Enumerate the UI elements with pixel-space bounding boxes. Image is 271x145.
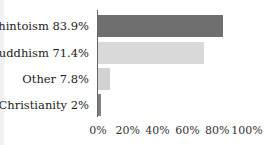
category-label: Other 7.8% [22,72,89,86]
category-label: Buddhism 71.4% [0,46,89,60]
bar [98,94,101,116]
category-label: Shintoism 83.9% [0,19,89,33]
x-tick-label: 100% [227,124,267,137]
category-label: Christianity 2% [0,98,89,112]
bar [98,68,110,90]
bar [98,15,223,37]
bar [98,42,204,64]
